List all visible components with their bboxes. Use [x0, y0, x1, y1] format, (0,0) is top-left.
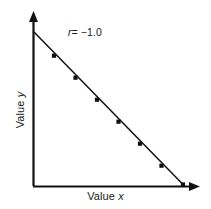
data-point-marker	[52, 54, 56, 58]
data-point-marker	[73, 76, 77, 80]
correlation-value: = −1.0	[72, 26, 102, 38]
x-axis-label-word: Value	[87, 190, 115, 202]
y-axis	[29, 11, 38, 186]
y-axis-label-container: Value y	[10, 55, 30, 165]
regression-line	[34, 32, 185, 186]
y-axis-label-variable: y	[14, 92, 26, 98]
data-point-marker	[181, 182, 185, 186]
plot-canvas	[0, 0, 211, 209]
data-point-marker	[95, 98, 99, 102]
x-axis-label-variable: x	[118, 190, 124, 202]
data-point-marker	[138, 142, 142, 146]
data-point-marker	[159, 164, 163, 168]
y-axis-arrowhead-icon	[29, 11, 38, 22]
x-axis-label: Value x	[0, 190, 211, 202]
data-series-line	[34, 32, 185, 186]
correlation-annotation: r= −1.0	[68, 26, 102, 38]
data-point-marker	[116, 120, 120, 124]
y-axis-label-word: Value	[14, 100, 26, 128]
correlation-scatter-figure: r= −1.0 Value x Value y	[0, 0, 211, 209]
y-axis-label: Value y	[14, 92, 26, 129]
